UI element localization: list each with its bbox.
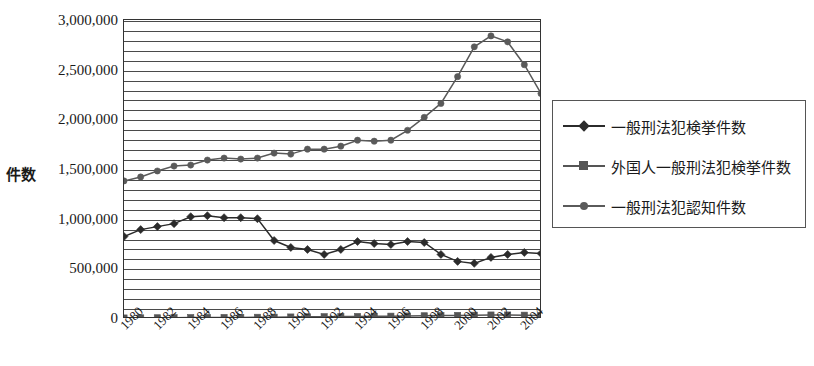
legend-marker-sample: [563, 155, 605, 177]
x-axis-tick-labels: 1980198219841986198819901992199419961998…: [123, 318, 541, 366]
data-point: [304, 146, 310, 152]
data-point: [204, 157, 210, 163]
legend-item[interactable]: 一般刑法犯検挙件数: [563, 115, 746, 137]
data-point: [454, 257, 462, 265]
data-point: [371, 138, 377, 144]
y-axis-tick-labels: 3,000,0002,500,0002,000,0001,500,0001,00…: [6, 0, 118, 366]
data-point: [470, 259, 478, 267]
data-point: [138, 174, 144, 180]
data-point: [387, 241, 395, 249]
plot-area: [123, 19, 541, 318]
diamond-marker: [578, 120, 589, 131]
data-point: [303, 245, 311, 253]
y-axis-tick-label: 0: [10, 311, 118, 326]
data-point: [238, 156, 244, 162]
data-point: [203, 212, 211, 220]
data-point: [188, 162, 194, 168]
data-point: [137, 226, 145, 234]
y-axis-tick-label: 1,500,000: [10, 162, 118, 177]
y-axis-tick-label: 2,500,000: [10, 63, 118, 78]
y-axis-tick-label: 500,000: [10, 261, 118, 276]
data-point: [537, 249, 541, 257]
data-point: [438, 100, 444, 106]
y-axis-tick-label: 2,000,000: [10, 112, 118, 127]
square-marker: [579, 161, 588, 170]
legend-marker-sample: [563, 115, 605, 137]
legend-item[interactable]: 一般刑法犯認知件数: [563, 195, 746, 217]
series-line: [124, 36, 541, 181]
data-point: [254, 155, 260, 161]
data-point: [521, 62, 527, 68]
data-point: [504, 250, 512, 258]
data-point: [338, 143, 344, 149]
data-point: [388, 137, 394, 143]
legend-item-label: 一般刑法犯認知件数: [605, 196, 746, 217]
series-1: [124, 212, 541, 268]
data-point: [170, 220, 178, 228]
data-point: [488, 33, 494, 39]
data-point: [455, 74, 461, 80]
data-point: [404, 238, 412, 246]
legend-marker-sample: [563, 195, 605, 217]
legend-item-label: 外国人一般刑法犯検挙件数: [605, 156, 791, 177]
legend-item-label: 一般刑法犯検挙件数: [605, 116, 746, 137]
data-point: [370, 240, 378, 248]
y-axis-tick-label: 3,000,000: [10, 13, 118, 28]
data-point: [354, 238, 362, 246]
chart-legend: 一般刑法犯検挙件数外国人一般刑法犯検挙件数一般刑法犯認知件数: [552, 100, 806, 228]
data-point: [154, 168, 160, 174]
data-point: [538, 90, 541, 96]
data-point: [220, 214, 228, 222]
data-point: [487, 253, 495, 261]
circle-marker: [580, 202, 588, 210]
data-point: [271, 150, 277, 156]
data-point: [505, 39, 511, 45]
data-point: [354, 137, 360, 143]
data-point: [288, 151, 294, 157]
data-point: [187, 213, 195, 221]
data-point: [471, 44, 477, 50]
series-container: [124, 20, 541, 318]
data-point: [124, 233, 128, 241]
chart-figure: 件数 3,000,0002,500,0002,000,0001,500,0001…: [0, 0, 814, 366]
data-point: [221, 155, 227, 161]
series-line: [124, 216, 541, 264]
data-point: [337, 245, 345, 253]
data-point: [287, 243, 295, 251]
data-point: [321, 146, 327, 152]
data-point: [153, 223, 161, 231]
series-3: [124, 33, 541, 184]
data-point: [404, 127, 410, 133]
data-point: [421, 114, 427, 120]
data-point: [520, 248, 528, 256]
data-point: [171, 163, 177, 169]
data-point: [124, 178, 127, 184]
legend-item[interactable]: 外国人一般刑法犯検挙件数: [563, 155, 791, 177]
data-point: [237, 214, 245, 222]
y-axis-tick-label: 1,000,000: [10, 212, 118, 227]
data-point: [320, 250, 328, 258]
